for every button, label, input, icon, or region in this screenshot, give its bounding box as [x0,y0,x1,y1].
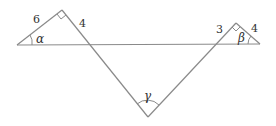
left-leg-down [62,10,148,117]
right-leg-up [148,23,236,117]
horizontal-line [17,44,260,45]
label-angle-beta: β [238,32,245,44]
label-side-3: 3 [216,24,223,35]
label-side-4-right: 4 [251,23,258,34]
right-angle-mark-left [57,14,66,19]
label-side-4-left: 4 [79,18,86,29]
label-angle-gamma: γ [144,90,151,102]
angle-arc-alpha [30,35,32,45]
label-side-6: 6 [33,14,40,25]
diagram-canvas: 6 4 3 4 α β γ [0,0,276,126]
diagram-lines [0,0,276,126]
label-angle-alpha: α [36,33,44,45]
angle-arc-beta [248,36,251,44]
